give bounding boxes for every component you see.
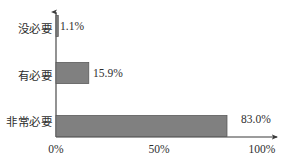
bar-chart: 没必要 有必要 非常必要 1.1% 15.9% 83.0% 0% 50% 100… bbox=[0, 0, 285, 166]
value-label-1: 15.9% bbox=[93, 67, 123, 79]
bar bbox=[56, 16, 58, 37]
value-label-2: 83.0% bbox=[241, 113, 271, 125]
x-tick-label-0: 0% bbox=[36, 143, 76, 155]
value-label-0: 1.1% bbox=[60, 20, 84, 32]
x-tick-label-1: 50% bbox=[139, 143, 179, 155]
category-label-0: 没必要 bbox=[0, 20, 52, 36]
category-label-2: 非常必要 bbox=[0, 113, 52, 129]
category-label-1: 有必要 bbox=[0, 67, 52, 83]
x-tick-label-2: 100% bbox=[242, 143, 282, 155]
bars-group bbox=[56, 16, 227, 137]
bar bbox=[56, 116, 227, 137]
bar bbox=[56, 63, 89, 84]
